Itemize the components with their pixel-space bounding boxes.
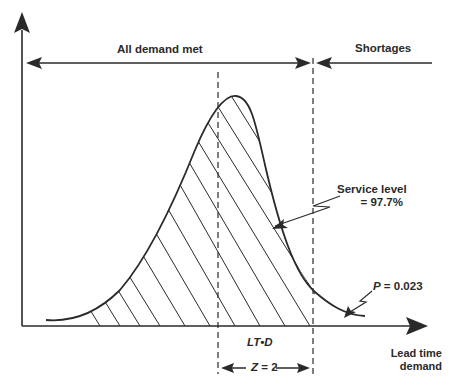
z-label: Z = 2 [251, 361, 278, 374]
z-symbol: Z [251, 361, 258, 373]
p-symbol: P [373, 280, 381, 292]
z-value: = 2 [258, 361, 278, 373]
y-axis-arrowhead-icon [14, 12, 30, 33]
service-level-leader [275, 196, 340, 226]
x-axis-label-line1: Lead time [380, 347, 442, 360]
service-level-line2: = 97.7% [337, 196, 403, 209]
mean-label: LT•D [247, 336, 273, 349]
all-demand-met-label: All demand met [117, 43, 203, 56]
shortages-label: Shortages [355, 42, 411, 55]
diagram-canvas: All demand met Shortages Service level =… [0, 0, 456, 392]
p-leader [350, 291, 372, 312]
x-axis-label: Lead time demand [380, 347, 442, 372]
axes [14, 12, 428, 335]
x-axis-label-line2: demand [380, 360, 442, 373]
demand-distribution-curve [46, 96, 365, 320]
service-level-line1: Service level [337, 183, 403, 196]
service-level-label: Service level = 97.7% [337, 183, 403, 209]
p-value: = 0.023 [381, 280, 423, 292]
p-label: P = 0.023 [373, 280, 423, 293]
